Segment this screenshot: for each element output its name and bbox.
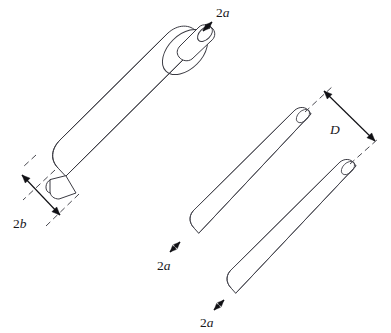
lower-stub-body	[50, 176, 76, 199]
label-lower-rod-diameter: 2a	[200, 315, 214, 330]
diagram-canvas: 2a 2b D 2a 2a	[0, 0, 391, 333]
upper-rod-diameter-dimension-group	[170, 242, 180, 252]
upper-rod-side-line-a	[195, 110, 295, 209]
cylinder-diameter-ext-line-lower	[46, 194, 79, 226]
label-rod-spacing: D	[329, 122, 340, 137]
rod-spacing-ext-line-top	[305, 86, 333, 112]
label-stub-top: 2a	[216, 5, 230, 20]
rod-spacing-ext-line-bottom	[350, 139, 378, 164]
cylinder-diameter-ext-line-upper-inner	[23, 155, 36, 167]
technical-diagram-figure: 2a 2b D 2a 2a	[0, 0, 391, 333]
lower-stub-group	[46, 176, 76, 199]
lower-stub-cap-arc	[46, 180, 50, 193]
lower-rod-side-line-b	[236, 166, 356, 293]
label-cylinder-diameter: 2b	[13, 216, 27, 231]
lower-rod-diameter-dimension-group	[214, 300, 224, 310]
rod-spacing-dimension-group	[305, 86, 378, 164]
label-upper-rod-diameter: 2a	[157, 258, 171, 273]
